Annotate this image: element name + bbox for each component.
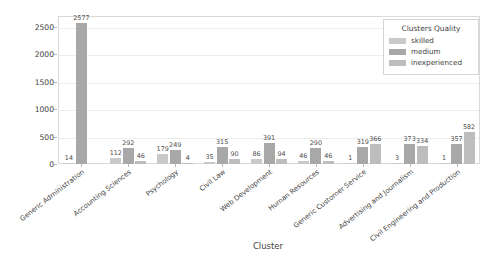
- bar[interactable]: [417, 146, 428, 164]
- bar-value-label: 582: [463, 123, 475, 131]
- x-tick-label: Psychology: [145, 168, 180, 198]
- x-tick-label: Web Development: [219, 168, 274, 213]
- bar[interactable]: [264, 143, 275, 164]
- bar-value-label: 35: [206, 153, 214, 161]
- legend-swatch-icon: [389, 38, 406, 44]
- bar[interactable]: [217, 147, 228, 164]
- bar-value-label: 4: [186, 154, 190, 162]
- y-tick-label: 0: [8, 160, 54, 169]
- bar-value-label: 46: [324, 152, 332, 160]
- y-tick-mark: [54, 27, 57, 28]
- y-tick-mark: [54, 109, 57, 110]
- y-tick-label: 2500: [8, 22, 54, 31]
- legend-swatch-icon: [389, 49, 406, 55]
- x-tick-mark: [222, 164, 223, 167]
- bar-value-label: 14: [65, 154, 73, 162]
- bar-value-label: 319: [357, 138, 369, 146]
- legend-item-skilled[interactable]: skilled: [389, 36, 473, 45]
- x-axis-title: Cluster: [58, 241, 478, 251]
- bar[interactable]: [170, 150, 181, 164]
- bar-group: 11229246: [110, 16, 146, 164]
- y-tick-mark: [54, 164, 57, 165]
- legend-label: skilled: [411, 36, 434, 45]
- bar[interactable]: [404, 144, 415, 164]
- bar[interactable]: [464, 132, 475, 164]
- legend-rows: skilledmediuminexperienced: [389, 36, 473, 67]
- y-tick-mark: [54, 82, 57, 83]
- bar-value-label: 249: [169, 141, 181, 149]
- bar[interactable]: [357, 147, 368, 164]
- x-tick-mark: [457, 164, 458, 167]
- legend-item-inexperienced[interactable]: inexperienced: [389, 58, 473, 67]
- bar[interactable]: [310, 148, 321, 164]
- bar[interactable]: [123, 148, 134, 164]
- x-tick-mark: [363, 164, 364, 167]
- bar-chart-figure: Quantity of CVs 05001000150020002500 142…: [0, 0, 493, 266]
- x-axis-ticks: Generic AdministrationAccounting Science…: [58, 164, 480, 240]
- bar-value-label: 46: [137, 152, 145, 160]
- x-tick-mark: [410, 164, 411, 167]
- x-tick-mark: [81, 164, 82, 167]
- legend-item-medium[interactable]: medium: [389, 47, 473, 56]
- x-tick-mark: [175, 164, 176, 167]
- x-tick-label: Advertising and Journalism: [337, 168, 415, 231]
- bar-group: 8639194: [251, 16, 287, 164]
- bar-value-label: 86: [252, 150, 260, 158]
- y-tick-label: 500: [8, 132, 54, 141]
- y-tick-label: 2000: [8, 50, 54, 59]
- legend-swatch-icon: [389, 60, 406, 66]
- bar-group: 142577: [63, 16, 99, 164]
- y-tick-label: 1500: [8, 77, 54, 86]
- bar-value-label: 46: [299, 152, 307, 160]
- bar-value-label: 94: [277, 150, 285, 158]
- legend-label: medium: [411, 47, 441, 56]
- bar-value-label: 3: [395, 154, 399, 162]
- bar-value-label: 2577: [73, 14, 89, 22]
- bar-group: 4629046: [298, 16, 334, 164]
- bar-group: 3531590: [204, 16, 240, 164]
- bar-value-label: 373: [404, 135, 416, 143]
- bar[interactable]: [157, 154, 168, 164]
- bar-value-label: 1: [348, 154, 352, 162]
- bar-value-label: 334: [416, 137, 428, 145]
- bar-value-label: 179: [157, 145, 169, 153]
- legend-title: Clusters Quality: [389, 24, 473, 33]
- bar-value-label: 90: [231, 150, 239, 158]
- legend-label: inexperienced: [411, 58, 462, 67]
- x-tick-label: Civil Engineering and Production: [368, 168, 461, 243]
- bar[interactable]: [451, 144, 462, 164]
- x-tick-label: Civil Law: [198, 168, 227, 193]
- bar-value-label: 292: [122, 139, 134, 147]
- bar-value-label: 391: [263, 134, 275, 142]
- x-tick-mark: [316, 164, 317, 167]
- legend: Clusters Quality skilledmediuminexperien…: [383, 19, 479, 75]
- bar-group: 1319366: [345, 16, 381, 164]
- bar-value-label: 1: [442, 154, 446, 162]
- bar-value-label: 357: [450, 135, 462, 143]
- y-axis-ticks: 05001000150020002500: [0, 16, 54, 164]
- y-tick-mark: [54, 137, 57, 138]
- bar-value-label: 112: [110, 149, 122, 157]
- bar-value-label: 290: [310, 139, 322, 147]
- y-tick-mark: [54, 54, 57, 55]
- bar-value-label: 315: [216, 138, 228, 146]
- x-tick-mark: [128, 164, 129, 167]
- bar[interactable]: [370, 144, 381, 164]
- bar-value-label: 366: [369, 135, 381, 143]
- bar[interactable]: [76, 23, 87, 164]
- bar-group: 1792494: [157, 16, 193, 164]
- y-tick-label: 1000: [8, 105, 54, 114]
